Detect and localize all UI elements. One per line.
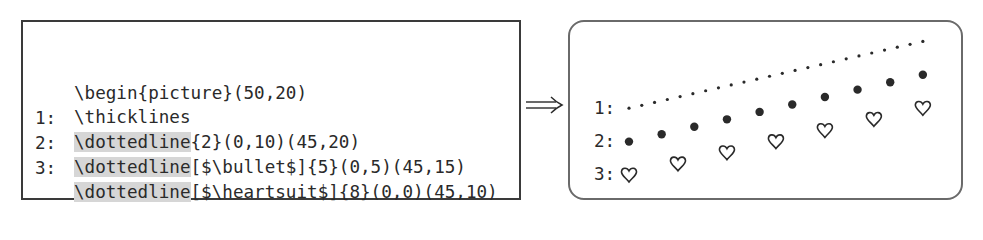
code-text: \dottedline[$\bullet$]{5}(0,5)(45,15) bbox=[74, 155, 466, 179]
code-args: {2}(0,10)(45,20) bbox=[191, 132, 360, 152]
code-text: \dottedline[$\heartsuit$]{8}(0,0)(45,10) bbox=[74, 180, 498, 204]
code-listing-panel: \begin{picture}(50,20) \thicklines 1: \d… bbox=[21, 20, 521, 200]
code-text: \begin{picture}(50,20) bbox=[74, 81, 307, 105]
code-text: \dottedline{2}(0,10)(45,20) bbox=[74, 130, 360, 154]
output-picture-panel bbox=[568, 20, 963, 200]
code-text: \end{picture} bbox=[74, 205, 212, 209]
code-line: 2: \dottedline[$\bullet$]{5}(0,5)(45,15) bbox=[23, 107, 65, 131]
code-command: \dottedline bbox=[74, 182, 191, 202]
code-args: \begin{picture}(50,20) bbox=[74, 83, 307, 103]
code-line: 3: \dottedline[$\heartsuit$]{8}(0,0)(45,… bbox=[23, 132, 65, 156]
code-args: [$\bullet$]{5}(0,5)(45,15) bbox=[191, 157, 466, 177]
code-command: \dottedline bbox=[74, 157, 191, 177]
code-args: \end{picture} bbox=[74, 207, 212, 209]
code-args: \thicklines bbox=[74, 107, 191, 127]
code-line: \end{picture} bbox=[23, 157, 65, 181]
output-label-2: 2: bbox=[594, 131, 615, 151]
code-line: 1: \dottedline{2}(0,10)(45,20) bbox=[23, 82, 65, 106]
output-label-3: 3: bbox=[594, 164, 615, 184]
code-line: \begin{picture}(50,20) bbox=[23, 33, 65, 57]
code-command: \dottedline bbox=[74, 132, 191, 152]
output-label-1: 1: bbox=[594, 98, 615, 118]
code-line: \thicklines bbox=[23, 57, 65, 81]
implies-arrow-icon bbox=[524, 93, 564, 117]
code-text: \thicklines bbox=[74, 105, 191, 129]
code-args: [$\heartsuit$]{8}(0,0)(45,10) bbox=[191, 182, 498, 202]
